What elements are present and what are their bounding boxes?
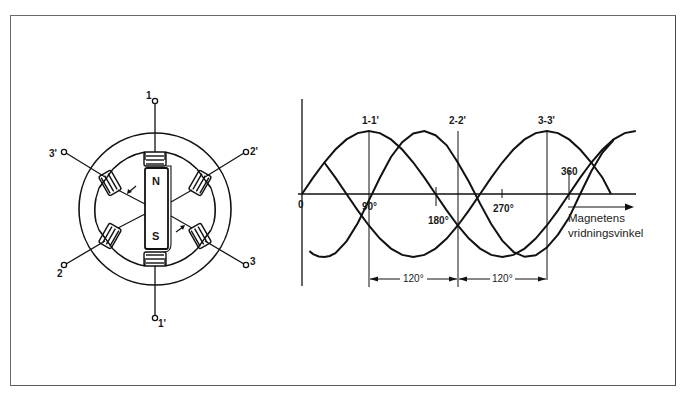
figure-canvas: N S 1 1' 2 2' 3 3' [0, 0, 687, 395]
terminal-label-3-prime: 3' [49, 148, 57, 159]
terminal-label-2-prime: 2' [250, 146, 258, 157]
terminal-label-2: 2 [57, 268, 63, 279]
terminal-label-1-prime: 1' [158, 318, 166, 329]
peak-label-3: 3-3' [538, 115, 555, 126]
coil-3 [188, 223, 211, 249]
coil-1 [144, 152, 166, 166]
coil-1-prime [144, 252, 166, 266]
terminal-label-3: 3 [250, 256, 256, 267]
rotor-south-label: S [152, 230, 159, 242]
x-tick-360: 360 [561, 166, 578, 177]
terminal-label-1: 1 [146, 90, 152, 101]
x-tick-0: 0 [298, 199, 304, 210]
phase-spacing-label-2: 120° [492, 273, 513, 284]
waveform-chart [298, 99, 636, 287]
x-axis-label-line2: vridningsvinkel [568, 227, 643, 239]
x-axis-label-line1: Magnetens [568, 212, 625, 224]
phase-spacing-label-1: 120° [403, 273, 424, 284]
x-tick-180: 180° [428, 215, 449, 226]
peak-label-1: 1-1' [362, 115, 379, 126]
peak-label-2: 2-2' [449, 115, 466, 126]
x-tick-270: 270° [493, 203, 514, 214]
coil-2 [98, 223, 121, 249]
x-tick-90: 90° [362, 201, 377, 212]
stepper-motor-diagram [61, 98, 248, 320]
rotor-north-label: N [152, 175, 160, 187]
